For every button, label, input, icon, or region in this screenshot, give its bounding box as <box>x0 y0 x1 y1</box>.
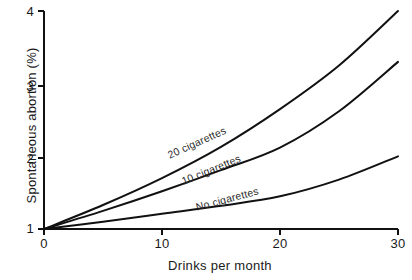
x-tick-label-10: 10 <box>148 236 176 251</box>
x-tick-label-20: 20 <box>266 236 294 251</box>
x-axis-title: Drinks per month <box>120 258 320 273</box>
x-tick-label-0: 0 <box>30 236 58 251</box>
y-axis-title: Spontaneous abortion (%) <box>24 26 39 226</box>
x-tick-label-30: 30 <box>384 236 412 251</box>
y-tick-label-4: 4 <box>18 4 34 19</box>
chart-figure: 4 3 2 1 0 10 20 30 Spontaneous abortion … <box>0 0 412 280</box>
